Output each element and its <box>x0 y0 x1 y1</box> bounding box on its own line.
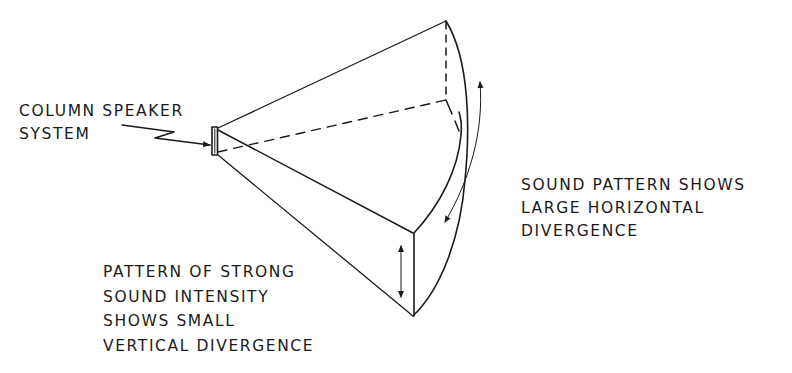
speaker-label-line: SYSTEM <box>19 126 90 142</box>
horizontal-label-line: DIVERGENCE <box>521 223 639 239</box>
speaker-label-line: COLUMN SPEAKER <box>19 103 184 119</box>
back-hidden-arc <box>446 100 459 131</box>
outer-arc <box>413 21 468 316</box>
cone-hidden-edge <box>218 100 446 152</box>
vertical-label-line: VERTICAL DIVERGENCE <box>103 339 314 355</box>
inner-arc <box>414 112 461 233</box>
vertical-label-line: SOUND INTENSITY <box>103 289 269 305</box>
horizontal-label-line: LARGE HORIZONTAL <box>521 200 705 216</box>
vertical-label-line: PATTERN OF STRONG <box>103 264 296 280</box>
vertical-label-line: SHOWS SMALL <box>103 313 235 329</box>
cone-middle-edge <box>218 130 413 233</box>
pointer-arrow <box>122 125 210 145</box>
horizontal-label-line: SOUND PATTERN SHOWS <box>521 177 746 193</box>
cone-upper-edge <box>218 21 446 128</box>
